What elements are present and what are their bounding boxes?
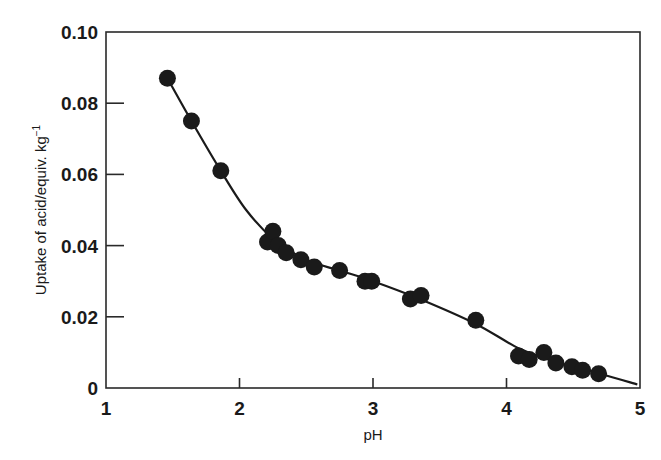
- data-point: [183, 113, 200, 130]
- y-tick-label: 0.06: [61, 164, 98, 185]
- chart-canvas: 1234500.020.040.060.080.10 pH Uptake of …: [0, 0, 661, 460]
- data-points: [159, 70, 607, 382]
- y-tick-label: 0: [87, 378, 98, 399]
- data-point: [547, 355, 564, 372]
- y-axis-title: Uptake of acid/equiv. kg−1: [31, 124, 49, 295]
- data-point: [590, 365, 607, 382]
- data-point: [159, 70, 176, 87]
- y-tick-label: 0.02: [61, 307, 98, 328]
- data-point: [574, 362, 591, 379]
- data-point: [306, 258, 323, 275]
- y-tick-label: 0.10: [61, 22, 98, 43]
- data-point: [467, 312, 484, 329]
- plot-frame: [106, 32, 640, 388]
- y-tick-label: 0.08: [61, 93, 98, 114]
- data-point: [331, 262, 348, 279]
- x-tick-label: 5: [635, 398, 646, 419]
- fitted-curve: [167, 78, 637, 384]
- x-tick-label: 2: [234, 398, 245, 419]
- x-tick-label: 4: [501, 398, 512, 419]
- x-tick-label: 3: [368, 398, 379, 419]
- data-point: [212, 162, 229, 179]
- plot-axes: [106, 32, 640, 388]
- data-point: [278, 244, 295, 261]
- data-point: [413, 287, 430, 304]
- x-axis-title: pH: [363, 426, 382, 443]
- y-tick-label: 0.04: [61, 236, 98, 257]
- data-point: [363, 273, 380, 290]
- x-tick-label: 1: [101, 398, 112, 419]
- data-point: [521, 351, 538, 368]
- curve-path: [167, 78, 637, 384]
